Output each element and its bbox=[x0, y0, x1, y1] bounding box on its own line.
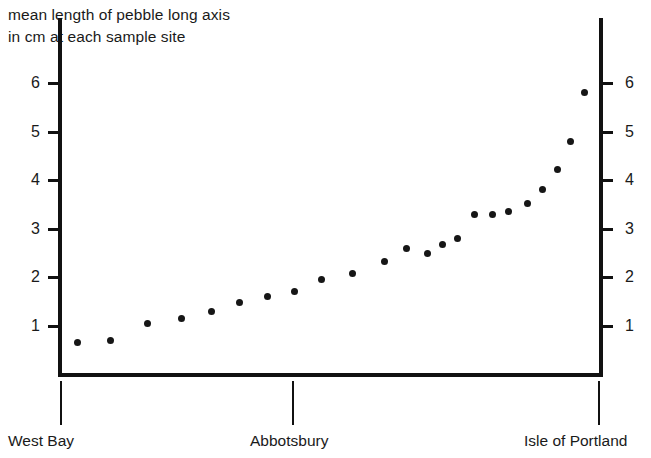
y-tick-label-left: 1 bbox=[18, 318, 40, 334]
x-site-label: Isle of Portland bbox=[524, 432, 627, 450]
y-tick-right-2 bbox=[603, 276, 613, 279]
y-tick-label-left: 6 bbox=[18, 75, 40, 91]
y-tick-right-3 bbox=[603, 228, 613, 231]
y-tick-left-4 bbox=[48, 179, 58, 182]
y-axis-left bbox=[58, 18, 62, 377]
data-point bbox=[74, 339, 81, 346]
chart-title: mean length of pebble long axis in cm at… bbox=[8, 4, 230, 48]
data-point bbox=[208, 308, 215, 315]
data-point bbox=[567, 138, 574, 145]
y-tick-label-right: 3 bbox=[625, 221, 647, 237]
y-axis-right bbox=[599, 18, 603, 377]
y-tick-label-right: 5 bbox=[625, 124, 647, 140]
x-axis bbox=[58, 373, 603, 377]
data-point bbox=[524, 200, 531, 207]
data-point bbox=[454, 235, 461, 242]
data-point bbox=[318, 276, 325, 283]
y-tick-right-6 bbox=[603, 82, 613, 85]
y-tick-left-2 bbox=[48, 276, 58, 279]
y-tick-label-left: 2 bbox=[18, 269, 40, 285]
data-point bbox=[439, 241, 446, 248]
data-point bbox=[403, 245, 410, 252]
x-site-label: Abbotsbury bbox=[250, 432, 328, 450]
y-tick-label-left: 3 bbox=[18, 221, 40, 237]
y-tick-label-right: 2 bbox=[625, 269, 647, 285]
y-tick-left-1 bbox=[48, 325, 58, 328]
y-tick-label-right: 1 bbox=[625, 318, 647, 334]
data-point bbox=[505, 208, 512, 215]
data-point bbox=[554, 166, 561, 173]
y-tick-right-5 bbox=[603, 131, 613, 134]
data-point bbox=[291, 288, 298, 295]
data-point bbox=[264, 293, 271, 300]
data-point bbox=[178, 315, 185, 322]
data-point bbox=[381, 258, 388, 265]
x-site-tick bbox=[60, 381, 62, 425]
data-point bbox=[424, 250, 431, 257]
x-site-tick bbox=[598, 381, 600, 425]
y-tick-right-1 bbox=[603, 325, 613, 328]
y-tick-left-6 bbox=[48, 82, 58, 85]
x-site-label: West Bay bbox=[8, 432, 74, 450]
chart-container: mean length of pebble long axis in cm at… bbox=[0, 0, 651, 458]
x-site-tick bbox=[292, 381, 294, 425]
y-tick-left-3 bbox=[48, 228, 58, 231]
y-tick-label-left: 4 bbox=[18, 172, 40, 188]
y-tick-label-left: 5 bbox=[18, 124, 40, 140]
y-tick-left-5 bbox=[48, 131, 58, 134]
data-point bbox=[349, 270, 356, 277]
data-point bbox=[471, 211, 478, 218]
y-tick-label-right: 6 bbox=[625, 75, 647, 91]
data-point bbox=[144, 320, 151, 327]
y-tick-label-right: 4 bbox=[625, 172, 647, 188]
data-point bbox=[236, 299, 243, 306]
data-point bbox=[581, 89, 588, 96]
y-tick-right-4 bbox=[603, 179, 613, 182]
data-point bbox=[107, 337, 114, 344]
data-point bbox=[539, 186, 546, 193]
data-point bbox=[489, 211, 496, 218]
